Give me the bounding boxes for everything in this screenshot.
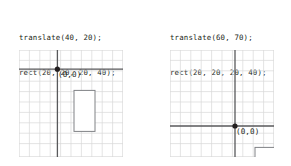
panel-right: translate(60, 70); rect(20, 20, 20, 40); bbox=[151, 0, 291, 166]
grid-lines-left bbox=[19, 50, 123, 157]
figure-canvas: translate(40, 20); rect(20, 20, 20, 40); bbox=[0, 0, 291, 166]
grid-svg-left bbox=[19, 50, 123, 157]
origin-label-left: (0,0) bbox=[58, 70, 81, 79]
coordinate-grid-right bbox=[170, 50, 274, 157]
translated-rect-right bbox=[255, 147, 274, 157]
origin-label-right: (0,0) bbox=[236, 127, 259, 136]
code-line-translate-right: translate(60, 70); bbox=[170, 32, 267, 44]
panel-left: translate(40, 20); rect(20, 20, 20, 40); bbox=[0, 0, 145, 166]
code-line-translate-left: translate(40, 20); bbox=[19, 32, 116, 44]
grid-svg-right bbox=[170, 50, 274, 157]
translated-rect-left bbox=[74, 90, 95, 131]
grid-lines-right bbox=[170, 50, 274, 157]
coordinate-grid-left bbox=[19, 50, 123, 157]
